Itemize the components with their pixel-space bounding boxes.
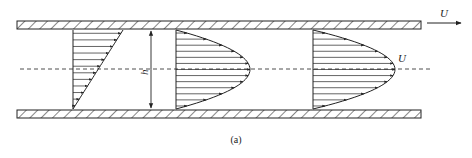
wall-velocity-label: U	[440, 7, 449, 19]
profile-envelope	[73, 30, 123, 109]
bottom-wall	[17, 110, 421, 118]
max-velocity-label: U	[398, 52, 407, 64]
top-wall	[17, 21, 421, 29]
figure-caption: (a)	[230, 134, 241, 146]
linear-couette-profile	[73, 30, 123, 109]
parabolic-profile-2	[313, 30, 395, 109]
parabolic-profile-1	[176, 30, 250, 109]
channel-flow-diagram: h U U (a)	[0, 0, 472, 158]
gap-height-label: h	[138, 69, 150, 75]
diagram-svg: h U U (a)	[0, 0, 472, 158]
velocity-profiles	[73, 30, 395, 109]
